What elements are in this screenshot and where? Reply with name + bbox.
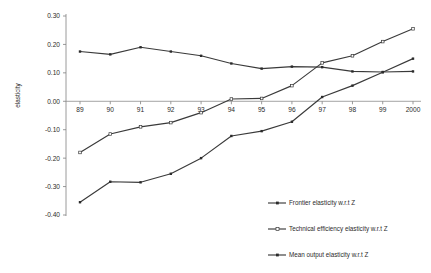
- x-tick-label: 2000: [406, 106, 421, 113]
- x-tick-label: 97: [319, 106, 327, 113]
- x-tick-label: 92: [167, 106, 175, 113]
- y-axis-ticks: 0.300.200.100.00-0.10-0.20-0.30-0.40: [45, 12, 66, 218]
- data-point-marker: [291, 121, 293, 123]
- data-point-marker: [139, 126, 142, 129]
- data-point-marker: [170, 173, 172, 175]
- legend-item[interactable]: Technical efficiency elasticity w.r.t Z: [268, 225, 388, 233]
- data-point-marker: [200, 55, 202, 57]
- data-point-marker: [109, 53, 111, 55]
- data-point-marker: [260, 97, 263, 100]
- series-group: [79, 27, 415, 203]
- legend-label: Frontier elasticity w.r.t Z: [289, 199, 355, 207]
- data-point-marker: [321, 96, 323, 98]
- series-line: [80, 59, 413, 203]
- x-tick-label: 89: [76, 106, 84, 113]
- legend-item[interactable]: Frontier elasticity w.r.t Z: [268, 199, 355, 207]
- x-axis-ticks: 89909192939495969798992000: [76, 101, 420, 113]
- chart-container: 0.300.200.100.00-0.10-0.20-0.30-0.408990…: [0, 0, 431, 273]
- data-point-marker: [79, 201, 81, 203]
- legend-label: Mean output elasticity w.r.t Z: [289, 251, 369, 259]
- data-point-marker: [230, 98, 233, 101]
- series-2: [79, 27, 415, 153]
- x-tick-label: 94: [228, 106, 236, 113]
- data-point-marker: [351, 70, 353, 72]
- data-point-marker: [139, 46, 141, 48]
- legend-marker: [276, 254, 279, 257]
- data-point-marker: [291, 84, 294, 87]
- data-point-marker: [291, 65, 293, 67]
- data-point-marker: [170, 50, 172, 52]
- y-tick-label: 0.10: [47, 69, 60, 76]
- data-point-marker: [230, 135, 232, 137]
- x-tick-label: 99: [379, 106, 387, 113]
- data-point-marker: [170, 121, 173, 124]
- y-tick-label: 0.20: [47, 41, 60, 48]
- data-point-marker: [321, 62, 324, 65]
- data-point-marker: [139, 181, 141, 183]
- axes-group: [66, 14, 421, 216]
- data-point-marker: [109, 133, 112, 136]
- series-3: [79, 57, 414, 203]
- data-point-marker: [412, 57, 414, 59]
- data-point-marker: [412, 27, 415, 30]
- x-tick-label: 96: [288, 106, 296, 113]
- data-point-marker: [230, 62, 232, 64]
- x-tick-label: 98: [349, 106, 357, 113]
- y-tick-label: -0.20: [45, 155, 60, 162]
- y-tick-label: -0.30: [45, 183, 60, 190]
- data-point-marker: [381, 40, 384, 43]
- data-point-marker: [79, 151, 82, 154]
- data-point-marker: [260, 67, 262, 69]
- data-point-marker: [109, 181, 111, 183]
- data-point-marker: [260, 130, 262, 132]
- legend-item[interactable]: Mean output elasticity w.r.t Z: [268, 251, 369, 259]
- x-tick-label: 95: [258, 106, 266, 113]
- y-tick-label: 0.30: [47, 12, 60, 19]
- data-point-marker: [351, 55, 354, 58]
- y-tick-label: -0.40: [45, 211, 60, 218]
- data-point-marker: [351, 84, 353, 86]
- x-tick-label: 90: [107, 106, 115, 113]
- legend: Frontier elasticity w.r.t ZTechnical eff…: [268, 199, 388, 259]
- x-tick-label: 91: [137, 106, 145, 113]
- y-tick-label: 0.00: [47, 98, 60, 105]
- data-point-marker: [412, 70, 414, 72]
- data-point-marker: [200, 157, 202, 159]
- y-axis-title: elasticity: [14, 82, 22, 107]
- legend-marker: [276, 202, 279, 205]
- y-tick-label: -0.10: [45, 126, 60, 133]
- data-point-marker: [382, 71, 384, 73]
- data-point-marker: [321, 66, 323, 68]
- legend-label: Technical efficiency elasticity w.r.t Z: [289, 225, 388, 233]
- data-point-marker: [79, 50, 81, 52]
- data-point-marker: [200, 111, 203, 114]
- line-chart: 0.300.200.100.00-0.10-0.20-0.30-0.408990…: [0, 0, 431, 273]
- legend-marker: [276, 228, 279, 231]
